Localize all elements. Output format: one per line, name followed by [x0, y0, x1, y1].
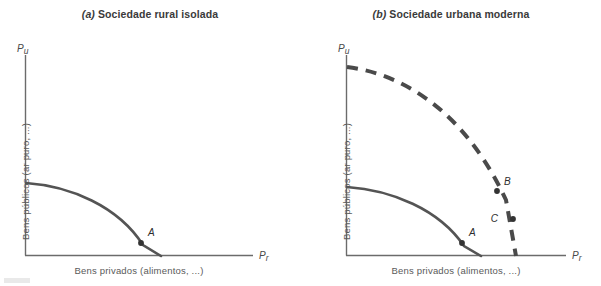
panel-b-curve-fronteira-ampliada	[347, 67, 516, 256]
panel-a: (a) Sociedade rural isolada A Pu Pr Bens…	[0, 0, 300, 286]
panel-b-point-B-label: B	[504, 176, 511, 187]
panel-b-point-A-marker	[459, 240, 465, 246]
panel-a-plot: A Pu Pr	[0, 0, 300, 286]
panel-b-xlabel: Bens privados (alimentos, ...)	[346, 265, 566, 276]
panel-a-point-A-label: A	[147, 227, 155, 238]
panel-b-point-B-marker	[494, 188, 500, 194]
panel-a-axis-x-name: Pr	[259, 250, 270, 263]
panel-a-point-A-marker	[138, 240, 144, 246]
panel-a-axis-y-name: Pu	[17, 43, 29, 56]
panel-a-xlabel: Bens privados (alimentos, ...)	[25, 265, 253, 276]
panel-b-axis-x-name: Pr	[572, 250, 583, 263]
panel-a-ylabel: Bens públicos (ar puro, ...)	[20, 123, 31, 240]
panel-b: (b) Sociedade urbana moderna A B C Pu Pr	[301, 0, 601, 286]
panel-b-point-A-label: A	[468, 227, 476, 238]
scan-artifact	[4, 278, 30, 283]
panel-b-axis-y-name: Pu	[338, 43, 350, 56]
panel-b-point-C-label: C	[491, 213, 499, 224]
figure-root: (a) Sociedade rural isolada A Pu Pr Bens…	[0, 0, 601, 286]
panel-b-point-C-marker	[510, 216, 516, 222]
panel-b-ylabel: Bens públicos (ar puro, ...)	[341, 123, 352, 240]
